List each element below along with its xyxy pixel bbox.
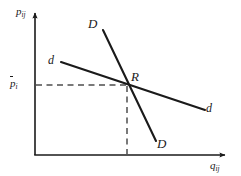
flat-demand-curve-label-left: d	[48, 54, 54, 66]
quantity-axis-label-subscript: ij	[216, 164, 220, 173]
quantity-axis-label: qij	[210, 160, 219, 173]
equilibrium-price-symbol: p	[10, 78, 16, 89]
steep-demand-curve-label-bottom: D	[157, 137, 166, 150]
flat-demand-curve-label-right: d	[206, 102, 212, 114]
price-axis-label: pij	[16, 6, 25, 19]
demand-curve-figure: pij pi qij D D d d R	[0, 0, 241, 176]
equilibrium-point-label: R	[131, 70, 139, 83]
equilibrium-price-tick-label: pi	[10, 78, 17, 91]
price-axis-label-subscript: ij	[22, 10, 26, 19]
steep-demand-curve-label-top: D	[88, 17, 97, 30]
figure-canvas	[0, 0, 241, 176]
